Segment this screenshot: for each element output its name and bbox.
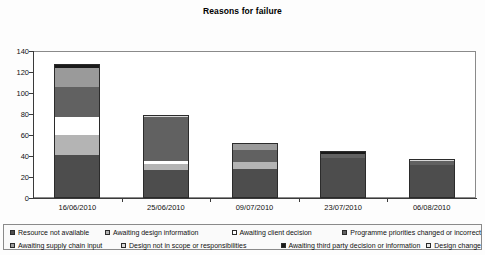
legend-swatch-icon <box>105 230 110 235</box>
bar-segment <box>143 164 189 169</box>
legend-label: Awaiting design information <box>113 229 198 236</box>
bar-segment <box>54 135 100 155</box>
legend-label: Awaiting third party decision or informa… <box>289 242 421 249</box>
chart-legend: Resource not availableAwaiting design in… <box>3 224 482 250</box>
x-axis-tick-mark <box>387 198 388 202</box>
legend-item: Resource not available <box>4 229 99 236</box>
legend-label: Programme priorities changed or incorrec… <box>350 229 481 236</box>
x-axis-tick-label: 09/07/2010 <box>210 203 299 212</box>
bar-segment <box>232 162 278 168</box>
bar-segment <box>320 158 366 198</box>
y-axis-tick-label: 120 <box>0 72 33 81</box>
bar-segment <box>54 65 100 68</box>
legend-item: Design not in scope or responsibilities <box>115 242 275 249</box>
bar-stack <box>232 51 278 198</box>
bar-segment <box>143 161 189 164</box>
chart-container: Reasons for failure 020406080100120140 1… <box>0 0 485 255</box>
x-axis-tick-label: 25/06/2010 <box>122 203 211 212</box>
bar-segment <box>143 117 189 161</box>
x-axis-tick-label: 23/07/2010 <box>299 203 388 212</box>
legend-label: Awaiting client decision <box>240 229 312 236</box>
legend-swatch-icon <box>10 243 15 248</box>
y-axis-tick-label: 40 <box>0 156 33 165</box>
legend-label: Resource not available <box>18 229 89 236</box>
bar-segment <box>409 165 455 198</box>
legend-item: Awaiting supply chain input <box>4 242 115 249</box>
chart-title: Reasons for failure <box>0 6 485 16</box>
bar-stack <box>54 51 100 198</box>
legend-label: Awaiting supply chain input <box>18 242 102 249</box>
x-axis-tick-label: 06/08/2010 <box>387 203 476 212</box>
bar-segment <box>409 159 455 161</box>
bar-segment <box>54 68 100 87</box>
bar-segment <box>143 115 189 117</box>
y-axis-tick-mark <box>29 198 33 199</box>
legend-swatch-icon <box>342 230 347 235</box>
x-axis-tick-label: 16/06/2010 <box>33 203 122 212</box>
legend-swatch-icon <box>10 230 15 235</box>
legend-label: Design change <box>434 242 481 249</box>
legend-item: Awaiting client decision <box>226 229 337 236</box>
legend-item: Awaiting third party decision or informa… <box>275 242 421 249</box>
bar-segment <box>54 64 100 65</box>
bar-series-group <box>33 51 476 198</box>
bar-segment <box>409 161 455 165</box>
legend-item: Programme priorities changed or incorrec… <box>336 229 481 236</box>
legend-swatch-icon <box>281 243 286 248</box>
x-axis-tick-mark <box>122 198 123 202</box>
y-axis-tick-label: 60 <box>0 135 33 144</box>
x-axis-tick-mark <box>210 198 211 202</box>
legend-item: Awaiting design information <box>99 229 226 236</box>
bar-segment <box>54 87 100 117</box>
y-axis-tick-label: 20 <box>0 177 33 186</box>
x-axis-tick-mark <box>299 198 300 202</box>
y-axis-tick-label: 140 <box>0 51 33 60</box>
bar-segment <box>232 143 278 149</box>
bar-segment <box>232 169 278 198</box>
bar-stack <box>143 51 189 198</box>
legend-row-1: Resource not availableAwaiting design in… <box>4 226 481 238</box>
bar-segment <box>320 154 366 158</box>
legend-swatch-icon <box>426 243 431 248</box>
legend-label: Design not in scope or responsibilities <box>129 242 247 249</box>
bar-segment <box>54 117 100 135</box>
legend-item: Design change <box>420 242 481 249</box>
y-axis-tick-label: 0 <box>0 198 33 207</box>
legend-swatch-icon <box>121 243 126 248</box>
bar-segment <box>143 170 189 198</box>
bar-stack <box>409 51 455 198</box>
y-axis-tick-label: 100 <box>0 93 33 102</box>
legend-row-2: Awaiting supply chain inputDesign not in… <box>4 239 481 251</box>
bar-segment <box>232 150 278 163</box>
x-axis-line <box>33 198 477 199</box>
legend-swatch-icon <box>232 230 237 235</box>
bar-segment <box>320 151 366 154</box>
y-axis-tick-label: 80 <box>0 114 33 123</box>
bar-stack <box>320 51 366 198</box>
bar-segment <box>54 155 100 198</box>
